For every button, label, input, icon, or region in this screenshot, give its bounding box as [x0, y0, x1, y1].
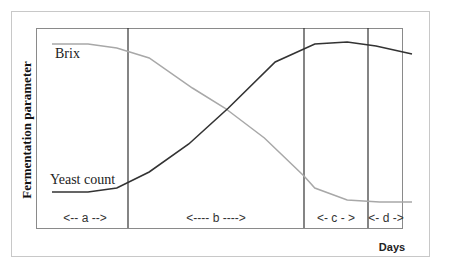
phase-b-label: <---- b ---->: [186, 211, 245, 225]
y-axis-label: Fermentation parameter: [19, 61, 35, 199]
x-axis-label: Days: [379, 241, 405, 253]
yeast-count-label: Yeast count: [50, 172, 115, 188]
phase-c-label: <- c - >: [317, 211, 355, 225]
phase-a-label: <-- a -->: [63, 211, 106, 225]
phase-d-label: <- d ->: [368, 211, 403, 225]
brix-label: Brix: [55, 46, 80, 62]
yeast-count-line: [52, 42, 412, 192]
chart-canvas: [0, 0, 454, 275]
